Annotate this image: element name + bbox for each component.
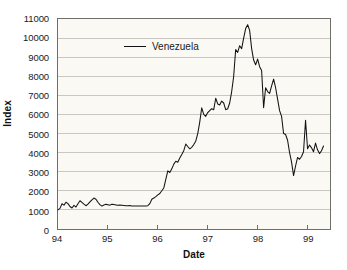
x-tick-label: 96 <box>152 233 163 244</box>
chart-figure: Index 0100020003000400050006000700080009… <box>0 0 347 270</box>
x-tick-label: 95 <box>102 233 113 244</box>
y-tick-label: 11000 <box>24 13 49 24</box>
y-tick-label: 9000 <box>28 51 49 62</box>
x-axis-tick-labels: 949596979899 <box>57 233 331 249</box>
y-axis-tick-labels: 0100020003000400050006000700080009000100… <box>0 18 53 230</box>
y-tick-label: 1000 <box>28 205 49 216</box>
x-tick-label: 98 <box>253 233 264 244</box>
x-tick-label: 99 <box>303 233 314 244</box>
plot-area: Venezuela <box>57 18 331 230</box>
y-tick-label: 4000 <box>28 147 49 158</box>
y-tick-label: 10000 <box>23 32 49 43</box>
x-tick-label: 94 <box>52 233 63 244</box>
y-tick-label: 2000 <box>28 186 49 197</box>
x-tick-label: 97 <box>203 233 214 244</box>
legend: Venezuela <box>124 41 199 52</box>
y-tick-label: 0 <box>44 225 49 236</box>
y-tick-label: 5000 <box>28 128 49 139</box>
y-tick-label: 3000 <box>28 167 49 178</box>
legend-line-swatch <box>124 46 146 47</box>
x-axis-title: Date <box>57 249 331 260</box>
legend-label-venezuela: Venezuela <box>152 41 199 52</box>
y-tick-label: 6000 <box>28 109 49 120</box>
y-tick-label: 8000 <box>28 70 49 81</box>
y-tick-label: 7000 <box>28 90 49 101</box>
